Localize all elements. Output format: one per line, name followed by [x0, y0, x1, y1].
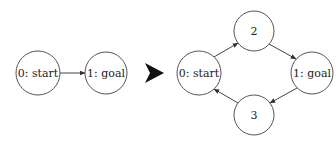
edge-2-to-goal	[269, 44, 296, 59]
edge-3-to-start	[214, 89, 238, 103]
node-start: 0: start	[16, 51, 60, 95]
node-3: 3	[234, 95, 274, 135]
node-start: 0: start	[177, 51, 221, 95]
edge-start-to-2	[214, 43, 238, 57]
node-label: 1: goal	[87, 67, 125, 80]
node-label: 0: start	[18, 67, 59, 80]
node-2: 2	[234, 11, 274, 51]
node-label: 0: start	[179, 67, 220, 80]
node-label: 3	[251, 109, 258, 122]
right-arrowhead-icon	[145, 63, 164, 83]
edge-goal-to-3	[270, 88, 297, 103]
node-label: 2	[251, 25, 258, 38]
node-goal: 1: goal	[291, 52, 333, 94]
graph-transformation-diagram: 0: start 1: goal 0: start 2 1: goal 3	[0, 0, 336, 146]
after-graph: 0: start 2 1: goal 3	[177, 11, 333, 135]
node-label: 1: goal	[293, 67, 331, 80]
node-goal: 1: goal	[85, 52, 127, 94]
before-graph: 0: start 1: goal	[16, 51, 127, 95]
